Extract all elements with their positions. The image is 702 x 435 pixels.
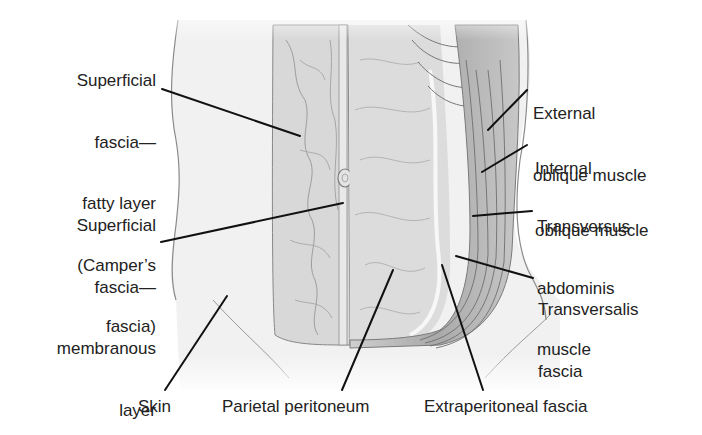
label-line: fascia— (77, 133, 156, 154)
label-parietal-peritoneum: Parietal peritoneum (222, 397, 369, 418)
label-skin: Skin (138, 397, 171, 418)
label-scarpas-fascia: Superficial fascia— membranous layer (Sc… (57, 175, 156, 435)
label-line: Superficial (57, 216, 156, 237)
label-line: Transversalis (538, 300, 638, 321)
anatomy-figure: Superficial fascia— fatty layer (Camper’… (0, 0, 702, 435)
superficial-fascia-flap (272, 25, 350, 345)
label-extraperitoneal-fascia: Extraperitoneal fascia (424, 397, 587, 418)
label-line: membranous (57, 339, 156, 360)
label-line: fascia— (57, 278, 156, 299)
label-line: Superficial (77, 71, 156, 92)
label-line: fascia (538, 362, 638, 383)
label-line: Transversus (537, 217, 630, 238)
peritoneum-region (349, 25, 450, 345)
